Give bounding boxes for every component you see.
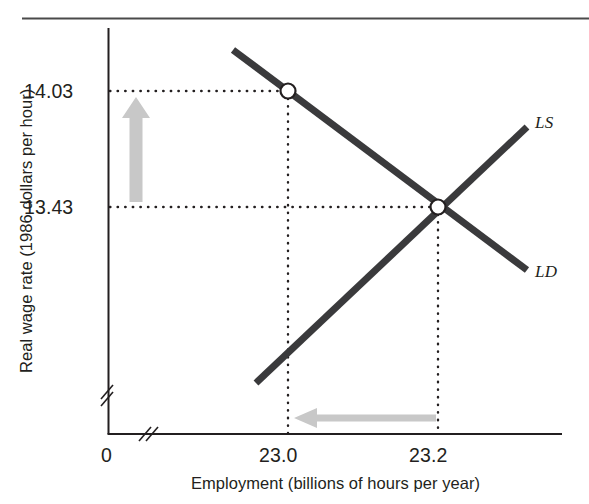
chart-canvas (0, 0, 589, 504)
labor-market-chart: 14.03 13.43 0 23.0 23.2 Real wage rate (… (0, 0, 589, 504)
x-axis-title: Employment (billions of hours per year) (191, 475, 480, 492)
labour-supply-curve-label: LS (535, 114, 554, 131)
x-axis-tick-label-23-0: 23.0 (259, 446, 297, 466)
x-axis-tick-label-23-2: 23.2 (409, 446, 447, 466)
wage-rise-arrow (122, 97, 150, 202)
y-axis-title: Real wage rate (1986 dollars per hour) (18, 89, 35, 373)
employment-fall-arrow (294, 408, 436, 428)
labour-demand-curve (233, 50, 527, 270)
y-axis-break-icon (101, 385, 113, 406)
origin-tick-label: 0 (101, 446, 112, 466)
point-on-ld-marker (281, 84, 296, 99)
labour-demand-curve-label: LD (535, 263, 557, 280)
equilibrium-point-marker (431, 200, 446, 215)
